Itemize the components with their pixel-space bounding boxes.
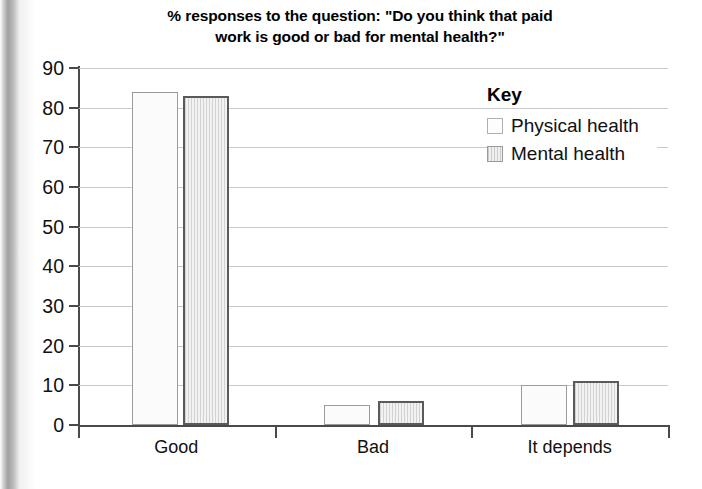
bar-physical-health-it-depends (521, 385, 567, 425)
bar-mental-health-bad (378, 401, 424, 425)
bar-physical-health-bad (324, 405, 370, 425)
y-axis-tick (69, 146, 79, 148)
bar-mental-health-good (183, 96, 229, 425)
legend-swatch-mental-health-icon (487, 146, 503, 162)
chart-screenshot: % responses to the question: "Do you thi… (0, 0, 702, 489)
legend-item-mental-health: Mental health (487, 142, 657, 166)
y-axis-label: 10 (20, 374, 64, 397)
y-axis-tick (69, 345, 79, 347)
x-axis-tick (275, 427, 277, 438)
chart-legend: Key Physical health Mental health (487, 84, 677, 170)
y-axis-tick (69, 186, 79, 188)
y-axis-tick (69, 265, 79, 267)
legend-item-physical-health: Physical health (487, 114, 657, 138)
x-axis-label-bad: Bad (283, 437, 463, 458)
y-axis-label: 70 (20, 136, 64, 159)
x-axis-line (78, 425, 670, 427)
y-axis-label: 0 (20, 414, 64, 437)
y-axis-tick (69, 107, 79, 109)
y-axis-label: 30 (20, 295, 64, 318)
chart-title-line-1: % responses to the question: "Do you thi… (60, 6, 660, 27)
y-axis-label: 60 (20, 176, 64, 199)
y-axis-label: 40 (20, 255, 64, 278)
legend-title: Key (487, 84, 526, 106)
y-axis-label: 20 (20, 335, 64, 358)
y-axis-tick (69, 67, 79, 69)
legend-swatch-physical-health-icon (487, 118, 503, 134)
y-axis-tick (69, 424, 79, 426)
y-axis-label: 50 (20, 216, 64, 239)
x-axis-label-good: Good (86, 437, 266, 458)
x-axis-tick-origin (78, 427, 80, 438)
y-axis-label: 80 (20, 97, 64, 120)
gridline (78, 68, 668, 69)
x-axis-tick (471, 427, 473, 438)
y-axis-tick (69, 305, 79, 307)
legend-label-physical-health: Physical health (511, 115, 639, 137)
x-axis-tick (668, 427, 670, 438)
chart-title-line-2: work is good or bad for mental health?" (60, 27, 660, 48)
bar-mental-health-it-depends (573, 381, 619, 425)
y-axis-tick (69, 384, 79, 386)
y-axis-label: 90 (20, 57, 64, 80)
legend-label-mental-health: Mental health (511, 143, 625, 165)
y-axis-tick (69, 226, 79, 228)
chart-title: % responses to the question: "Do you thi… (60, 6, 660, 48)
bar-physical-health-good (132, 92, 178, 425)
x-axis-label-it-depends: It depends (480, 437, 660, 458)
